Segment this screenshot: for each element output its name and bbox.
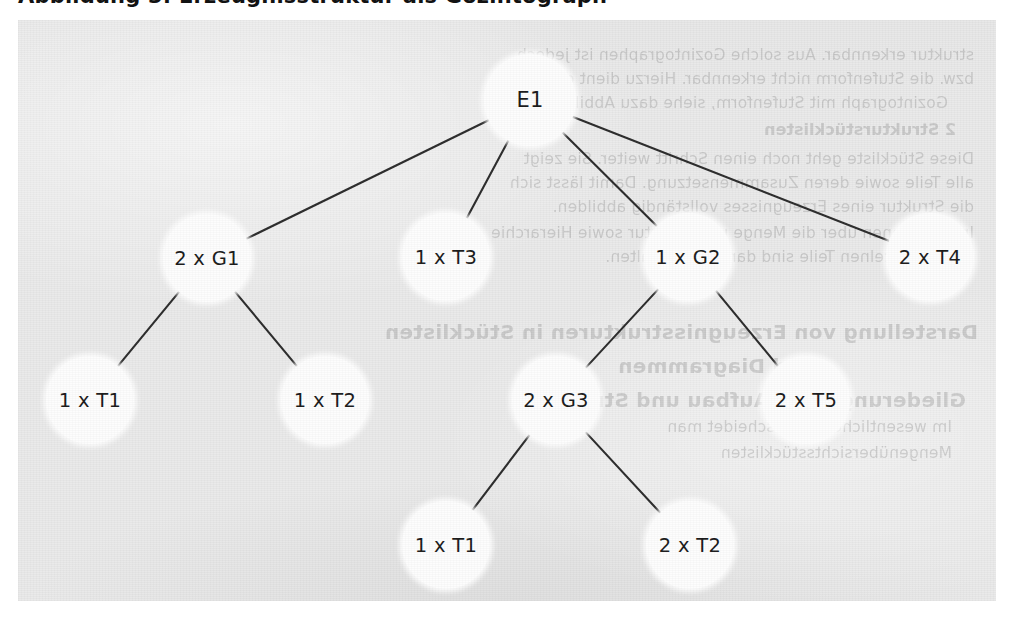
- tree-node-label: 2 x G3: [523, 389, 589, 412]
- scanned-page-panel: struktur erkennbar. Aus solche Gozintogr…: [18, 20, 996, 601]
- tree-node-label: 1 x T3: [415, 246, 477, 269]
- tree-node-g2: 1 x G2: [644, 213, 732, 301]
- tree-edge-g1-t1a: [117, 291, 179, 367]
- tree-edge-e1-t3: [466, 140, 509, 219]
- tree-node-label: 1 x T2: [294, 389, 356, 412]
- tree-node-t2a: 1 x T2: [281, 356, 369, 444]
- tree-node-label: E1: [516, 88, 543, 112]
- tree-node-label: 2 x G1: [174, 247, 240, 270]
- tree-node-t4: 2 x T4: [886, 213, 974, 301]
- page-heading-cutoff: Abbildung 3: Erzeugnisstruktur als Gozin…: [0, 0, 1015, 19]
- tree-node-t1a: 1 x T1: [46, 356, 134, 444]
- tree-edge-g2-g3: [585, 289, 659, 369]
- tree-node-label: 1 x G2: [655, 246, 721, 269]
- tree-node-label: 2 x T5: [775, 389, 837, 412]
- tree-edge-g1-t2a: [235, 291, 298, 367]
- tree-node-label: 1 x T1: [415, 534, 477, 557]
- tree-node-t2b: 2 x T2: [646, 501, 734, 589]
- tree-node-g3: 2 x G3: [512, 356, 600, 444]
- tree-node-t3: 1 x T3: [402, 213, 490, 301]
- tree-edge-e1-t4: [572, 116, 890, 241]
- tree-edge-g2-t5: [715, 290, 778, 367]
- tree-edge-e1-g2: [562, 132, 658, 227]
- tree-node-label: 1 x T1: [59, 389, 121, 412]
- tree-node-label: 2 x T2: [659, 534, 721, 557]
- page-heading-text: Abbildung 3: Erzeugnisstruktur als Gozin…: [18, 0, 607, 8]
- tree-node-t5: 2 x T5: [762, 356, 850, 444]
- tree-node-t1b: 1 x T1: [402, 501, 490, 589]
- tree-node-e1: E1: [484, 54, 576, 146]
- tree-edge-g3-t2b: [585, 432, 661, 514]
- tree-edge-g3-t1b: [472, 434, 530, 510]
- tree-node-g1: 2 x G1: [163, 214, 251, 302]
- tree-node-label: 2 x T4: [899, 246, 961, 269]
